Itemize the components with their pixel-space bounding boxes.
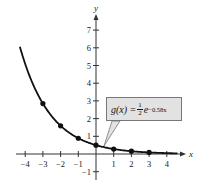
x-tick-label: −4	[21, 159, 31, 169]
y-tick-label: 1	[87, 131, 91, 141]
y-tick-label: 4	[87, 78, 92, 88]
x-axis-arrow-icon	[180, 152, 186, 157]
x-axis-label: x	[188, 149, 193, 159]
data-point	[40, 101, 45, 106]
x-tick-label: 3	[147, 159, 151, 169]
data-point	[147, 150, 152, 155]
chart-canvas: −4−3−2−11234 −11234567 x y	[0, 0, 203, 188]
formula-label: g(x) = 1 2 e−0.58x	[106, 97, 182, 121]
data-point	[76, 136, 81, 141]
y-tick-label: 7	[87, 25, 91, 35]
formula-exponent: −0.58x	[148, 106, 166, 113]
y-tick-label: 3	[87, 96, 91, 106]
formula-fraction: 1 2	[137, 102, 143, 117]
y-tick-label: 6	[87, 43, 91, 53]
data-point	[111, 146, 116, 151]
data-point	[93, 143, 98, 148]
x-tick-label: 4	[165, 159, 170, 169]
x-tick-label: 2	[129, 159, 133, 169]
x-tick-label: −3	[38, 159, 47, 169]
fraction-denominator: 2	[138, 110, 142, 117]
formula-lhs: g(x) =	[111, 104, 136, 115]
x-tick-label: 1	[112, 159, 116, 169]
callout-pointer	[104, 121, 120, 146]
y-axis-label: y	[93, 3, 98, 13]
y-tick-label: −1	[82, 167, 91, 177]
data-point	[129, 149, 134, 154]
y-tick-label: 5	[87, 61, 91, 71]
x-tick-label: −2	[56, 159, 65, 169]
y-tick-label: 2	[87, 114, 91, 124]
y-axis-arrow-icon	[94, 14, 99, 20]
data-point	[58, 123, 63, 128]
